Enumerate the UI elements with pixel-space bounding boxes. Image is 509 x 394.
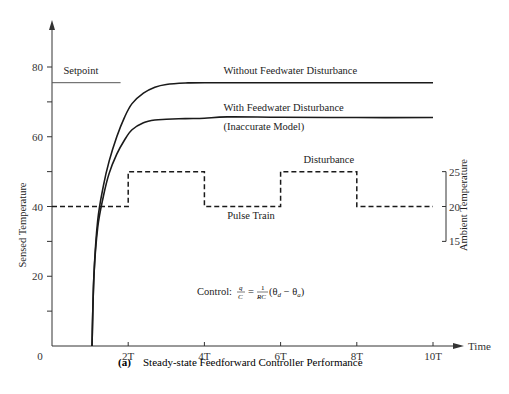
- y-tick-label: 60: [32, 131, 44, 143]
- y2-tick-label: 15: [449, 235, 461, 247]
- annotation: Setpoint: [63, 65, 98, 76]
- series-line-pulse-train-disturbance: [52, 172, 433, 207]
- formula-rhs-num: 1: [261, 284, 265, 292]
- annotation: Disturbance: [303, 154, 354, 165]
- y2-tick-label: 20: [449, 201, 461, 213]
- formula-eq: =: [248, 286, 254, 297]
- y-tick-label: 40: [32, 201, 44, 213]
- y-axis-label: Sensed Temperature: [17, 182, 28, 267]
- caption-label: (a): [118, 356, 131, 369]
- annotation: With Feedwater Disturbance: [223, 102, 344, 113]
- formula-rhs: (θd − θa): [269, 286, 305, 299]
- annotation: Pulse Train: [227, 210, 275, 221]
- x-axis-label: Time: [468, 340, 491, 352]
- series-line-with-feedwater-disturbance-inaccurate-model: [92, 117, 433, 346]
- formula-paren: (θ: [269, 286, 278, 298]
- annotation: Without Feedwater Disturbance: [223, 65, 357, 76]
- control-formula: Control: q C = 1 RC (θd − θa): [197, 284, 305, 301]
- formula-prefix: Control:: [197, 286, 232, 297]
- y2-tick-label: 25: [449, 166, 461, 178]
- x-tick-label: 10T: [424, 350, 442, 362]
- chart: Time Sensed Temperature Ambient Temperat…: [0, 0, 509, 394]
- y-tick-label: 80: [32, 61, 44, 73]
- formula-minus: − θ: [281, 286, 297, 297]
- formula-rhs-den: RC: [256, 293, 266, 301]
- chart-title: Steady-state Feedforward Controller Perf…: [143, 356, 363, 368]
- x-axis-arrow: [453, 343, 464, 349]
- y-tick-label: 20: [32, 270, 44, 282]
- formula-lhs-num: q: [239, 284, 243, 292]
- annotation: (Inaccurate Model): [223, 121, 304, 133]
- formula-lhs-den: C: [238, 293, 243, 301]
- formula-close: ): [301, 286, 305, 298]
- y-axis-arrow: [49, 20, 55, 30]
- x-tick-label: 0: [37, 350, 43, 362]
